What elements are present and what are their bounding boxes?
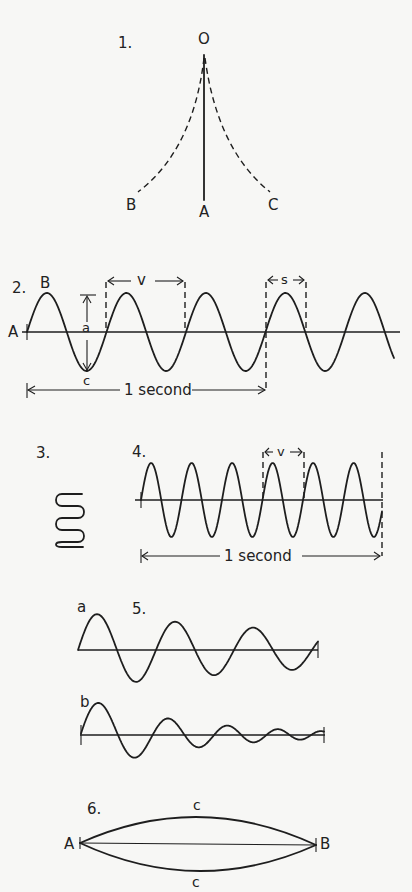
amplitude-label-a: a bbox=[82, 320, 90, 335]
string-rest-line bbox=[80, 843, 316, 845]
segment-label-s: s bbox=[281, 272, 288, 287]
string-label-a: A bbox=[64, 835, 75, 853]
pendulum-left-swing bbox=[138, 58, 204, 192]
damped-label-b: b bbox=[80, 693, 90, 711]
figure-1-pendulum: 1. O B A C bbox=[118, 30, 278, 221]
diagram-canvas: 1. O B A C 2. B A a c v s bbox=[0, 0, 412, 892]
figure-5-number: 5. bbox=[132, 600, 146, 618]
figure-3-number: 3. bbox=[36, 444, 50, 462]
figure-4-number: 4. bbox=[132, 443, 146, 461]
wave-label-c: c bbox=[83, 373, 90, 388]
figure-1-number: 1. bbox=[118, 34, 132, 52]
wave-label-a-origin: A bbox=[8, 323, 19, 341]
duration-label: 1 second bbox=[124, 381, 192, 399]
coil-shape bbox=[56, 494, 84, 547]
wave4-wavelength-label-v: v bbox=[277, 444, 285, 459]
pendulum-right-swing bbox=[205, 58, 270, 192]
damped-b-curve bbox=[81, 703, 324, 758]
string-label-top-c: c bbox=[193, 797, 201, 813]
string-label-b: B bbox=[320, 835, 330, 853]
string-bottom-curve bbox=[80, 843, 316, 871]
pendulum-label-a: A bbox=[199, 203, 210, 221]
wave4-duration-label: 1 second bbox=[224, 547, 292, 565]
string-label-bottom-c: c bbox=[192, 874, 200, 890]
figure-2-number: 2. bbox=[12, 279, 26, 297]
figure-4-wave: 4. v 1 second bbox=[132, 443, 383, 565]
pendulum-label-c: C bbox=[268, 196, 278, 214]
pendulum-label-b: B bbox=[126, 196, 136, 214]
pivot-label-o: O bbox=[198, 30, 210, 48]
string-top-curve bbox=[80, 817, 316, 845]
figure-3-coil: 3. bbox=[36, 444, 84, 547]
damped-label-a: a bbox=[77, 598, 86, 616]
figure-6-vibrating-string: 6. c A B c bbox=[64, 797, 330, 890]
figure-5-damped-waves: a 5. b bbox=[77, 598, 325, 758]
damped-a-curve bbox=[78, 614, 318, 682]
wavelength-label-v: v bbox=[137, 271, 146, 289]
wave-label-b: B bbox=[40, 274, 50, 292]
figure-2-wave: 2. B A a c v s 1 second bbox=[8, 271, 400, 399]
figure-6-number: 6. bbox=[87, 800, 101, 818]
